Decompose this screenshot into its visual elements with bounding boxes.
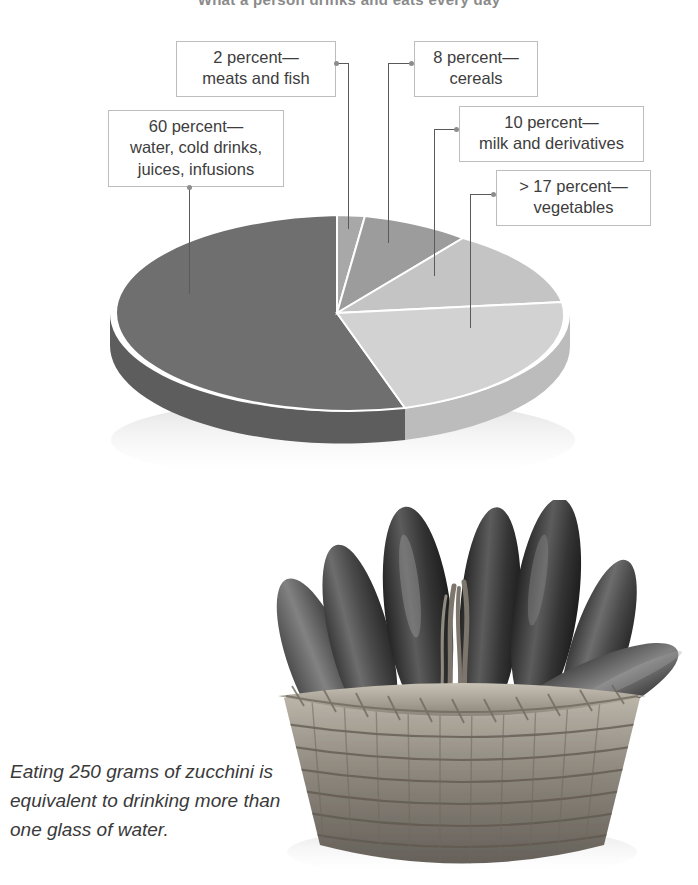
- callout-water-and-drinks: 60 percent— water, cold drinks, juices, …: [108, 110, 284, 187]
- page-title: What a person drinks and eats every day: [0, 0, 698, 8]
- leader-line-cereals-h: [388, 63, 411, 64]
- figure-page: What a person drinks and eats every day: [0, 0, 698, 885]
- figure-caption: Eating 250 grams of zucchini is equivale…: [10, 758, 330, 845]
- leader-line-water: [189, 188, 190, 294]
- callout-meats-and-fish: 2 percent— meats and fish: [176, 41, 336, 97]
- leader-dot-meats: [334, 61, 339, 66]
- caption-line3: one glass of water.: [10, 816, 330, 845]
- leader-line-veg-v: [470, 194, 471, 328]
- callout-water-line2: water, cold drinks,: [118, 137, 274, 158]
- callout-veg-line2: vegetables: [506, 197, 641, 218]
- caption-line1: Eating 250 grams of zucchini is: [10, 758, 330, 787]
- caption-line2: equivalent to drinking more than: [10, 787, 330, 816]
- leader-line-milk-h: [434, 129, 456, 130]
- callout-veg-line1: > 17 percent—: [506, 176, 641, 197]
- callout-water-line1: 60 percent—: [118, 116, 274, 137]
- leader-dot-vegetables: [491, 192, 496, 197]
- callout-meats-line2: meats and fish: [186, 68, 326, 89]
- callout-milk-and-derivatives: 10 percent— milk and derivatives: [459, 106, 644, 162]
- leader-line-meats-v: [348, 63, 349, 229]
- callout-meats-line1: 2 percent—: [186, 47, 326, 68]
- callout-water-line3: juices, infusions: [118, 159, 274, 180]
- callout-cereals-line1: 8 percent—: [424, 47, 528, 68]
- leader-line-milk-v: [434, 129, 435, 276]
- callout-vegetables: > 17 percent— vegetables: [496, 170, 651, 226]
- leader-line-veg-h: [470, 194, 493, 195]
- callout-cereals-line2: cereals: [424, 68, 528, 89]
- leader-dot-cereals: [409, 61, 414, 66]
- callout-milk-line2: milk and derivatives: [469, 133, 634, 154]
- leader-dot-water: [187, 185, 192, 190]
- leader-dot-milk: [454, 127, 459, 132]
- callout-cereals: 8 percent— cereals: [414, 41, 538, 97]
- leader-line-cereals-v: [388, 63, 389, 243]
- callout-milk-line1: 10 percent—: [469, 112, 634, 133]
- pie-chart: [95, 190, 595, 490]
